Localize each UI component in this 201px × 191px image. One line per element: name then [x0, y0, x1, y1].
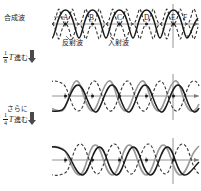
arrow-shaft	[30, 112, 34, 120]
step-2-denominator: 4	[3, 120, 8, 126]
label-reflected-wave: 反射波	[62, 40, 83, 47]
step-2-text: 1 4 T 進む	[3, 112, 28, 126]
x-axis-label: x	[185, 32, 189, 39]
plot-after-eighth-period	[52, 60, 201, 130]
node-letter-A: A	[63, 13, 69, 22]
label-composite-wave: 合成波	[4, 15, 25, 22]
arrow-shaft	[30, 50, 34, 58]
node-letter-C: C	[117, 13, 122, 22]
step-2-verb: 進む	[14, 114, 28, 124]
plot-svg-0: A B C D E F x	[52, 0, 201, 60]
x-axis-arrow-icon	[194, 94, 199, 98]
step-2-prefix: さらに	[7, 103, 28, 113]
arrow-head	[28, 120, 36, 125]
plot-svg-1	[52, 60, 201, 130]
node-letter-B: B	[89, 13, 94, 22]
step-2-symbol: T	[9, 115, 13, 124]
x-axis-arrow-icon	[194, 158, 199, 162]
plot-initial: A B C D E F x	[52, 0, 201, 60]
figure-root: A B C D E F x 合成波 反射波 入射波 1 8 T	[0, 0, 201, 191]
panel-after-quarter-period	[0, 130, 201, 191]
node-letter-D: D	[144, 13, 150, 22]
label-incident-wave: 入射波	[108, 40, 129, 47]
plot-svg-2	[52, 130, 201, 191]
node-letter-F: F	[183, 13, 187, 22]
plot-after-quarter-period	[52, 130, 201, 191]
step-caption-2: さらに 1 4 T 進む	[3, 112, 32, 126]
step-2-fraction: 1 4	[3, 112, 8, 126]
step-1-numerator: 1	[3, 50, 8, 56]
node-letter-E: E	[171, 13, 176, 22]
